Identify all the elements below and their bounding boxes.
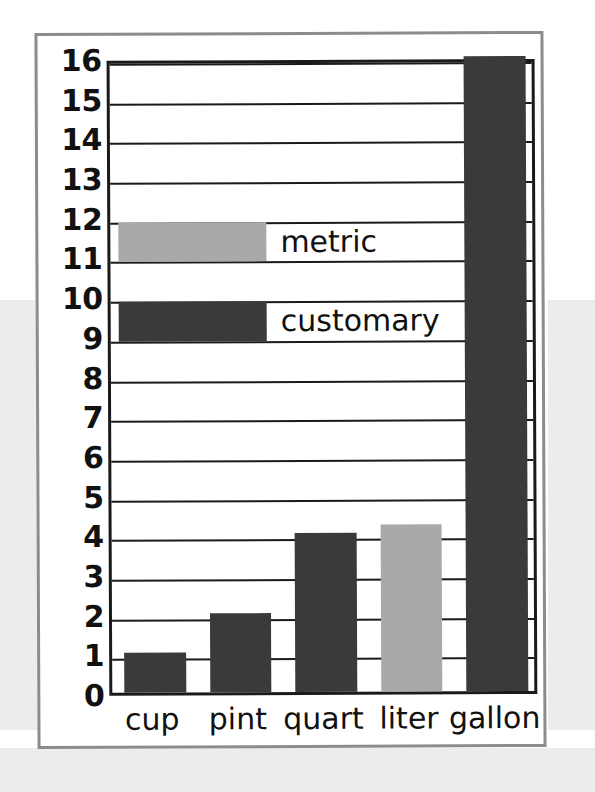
y-tick-label: 10 [45, 284, 103, 314]
y-tick-label: 2 [46, 601, 104, 631]
legend-swatch-customary [119, 301, 267, 341]
page-margin-tint-left [0, 300, 40, 730]
x-tick-label: pint [209, 699, 267, 739]
y-tick-label: 1 [46, 641, 104, 671]
y-tick-label: 0 [46, 681, 104, 711]
legend-item-metric: metric [118, 221, 381, 262]
y-tick-label: 8 [45, 363, 103, 393]
bar-chart: 161514131211109876543210 metriccustomary… [37, 34, 549, 752]
legend-swatch-metric [118, 222, 266, 262]
y-axis: 161514131211109876543210 [44, 61, 105, 696]
x-tick-label: liter [379, 698, 438, 738]
y-tick-label: 13 [44, 165, 102, 195]
figure-page: 161514131211109876543210 metriccustomary… [0, 0, 595, 792]
plot-area: metriccustomary [107, 59, 538, 696]
y-tick-label: 16 [43, 46, 101, 76]
x-tick-label: quart [283, 699, 364, 739]
y-tick-label: 12 [44, 205, 102, 235]
y-tick-label: 14 [44, 125, 102, 155]
legend-item-customary: customary [119, 300, 444, 341]
chart-frame: 161514131211109876543210 metriccustomary… [34, 31, 546, 749]
x-axis: cuppintquartlitergallon [109, 698, 537, 744]
x-tick-label: cup [125, 699, 180, 739]
x-tick-label: gallon [449, 698, 541, 738]
y-tick-label: 5 [45, 482, 103, 512]
chart-legend: metriccustomary [110, 62, 535, 693]
legend-label-metric: metric [276, 226, 381, 256]
y-tick-label: 9 [45, 324, 103, 354]
y-tick-label: 3 [46, 562, 104, 592]
legend-label-customary: customary [277, 305, 444, 336]
y-tick-label: 7 [45, 403, 103, 433]
page-margin-tint-bottom [0, 748, 595, 792]
y-tick-label: 11 [44, 244, 102, 274]
y-tick-label: 15 [44, 86, 102, 116]
y-tick-label: 6 [45, 443, 103, 473]
page-margin-tint-right [548, 300, 595, 730]
y-tick-label: 4 [46, 522, 104, 552]
